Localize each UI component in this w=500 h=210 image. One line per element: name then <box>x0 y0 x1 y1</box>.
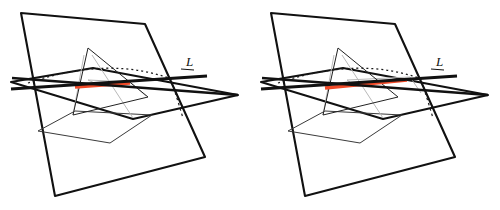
label-L-underline <box>431 69 444 70</box>
panel-right-canvas: L <box>250 0 500 210</box>
panel-left-canvas: L <box>0 0 250 210</box>
label-L-underline <box>181 69 194 70</box>
label-L: L <box>435 54 443 69</box>
hidden-edges-group <box>172 82 183 118</box>
vertical-plane <box>271 13 455 196</box>
label-L: L <box>185 54 193 69</box>
geometry-figure: L L <box>0 0 500 210</box>
panel-right: L <box>250 0 500 210</box>
vertical-plane <box>21 13 205 196</box>
lower-quadrilateral <box>38 111 152 143</box>
hidden-edges-group <box>422 82 433 118</box>
panel-left: L <box>0 0 250 210</box>
hidden-edge <box>172 82 183 118</box>
lower-quadrilateral <box>288 111 402 143</box>
hidden-edge <box>422 82 433 118</box>
